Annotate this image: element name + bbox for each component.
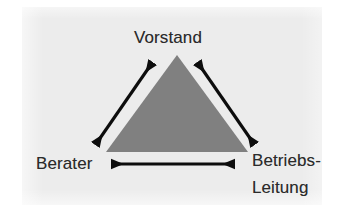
- node-label-berater: Berater: [36, 154, 92, 174]
- diagram-canvas: Vorstand Berater Betriebs- Leitung: [0, 0, 337, 219]
- node-label-betriebsleitung: Betriebs- Leitung: [252, 151, 321, 198]
- node-label-vorstand: Vorstand: [0, 28, 337, 48]
- node-label-berater-text: Berater: [36, 154, 92, 173]
- node-label-vorstand-text: Vorstand: [134, 28, 202, 48]
- node-label-betriebsleitung-line-2: Leitung: [252, 178, 321, 198]
- node-label-betriebsleitung-line-1: Betriebs-: [252, 151, 321, 170]
